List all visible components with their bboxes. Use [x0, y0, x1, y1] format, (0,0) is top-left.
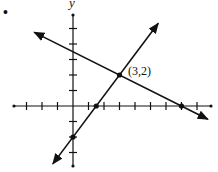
- x-axis-left-end: [12, 104, 15, 107]
- coordinate-plane: [0, 0, 218, 172]
- graph-figure: • y (3,2): [0, 0, 218, 172]
- marked-point: [117, 72, 122, 77]
- x-axis-right-end: [209, 104, 212, 107]
- increasing-line: [53, 23, 158, 164]
- intersection-label: (3,2): [128, 64, 151, 79]
- y-axis-top-end: [71, 13, 74, 16]
- y-axis-bottom-end: [71, 164, 74, 167]
- problem-marker: •: [3, 5, 8, 21]
- y-axis-label: y: [69, 0, 75, 11]
- marked-point: [70, 134, 75, 139]
- marked-point: [94, 103, 99, 108]
- marked-point: [179, 103, 184, 108]
